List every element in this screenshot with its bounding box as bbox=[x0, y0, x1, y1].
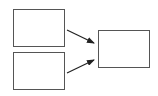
arrows-layer bbox=[0, 0, 158, 96]
arrow-bottom-to-output bbox=[67, 60, 94, 73]
arrow-top-to-output bbox=[67, 30, 94, 43]
